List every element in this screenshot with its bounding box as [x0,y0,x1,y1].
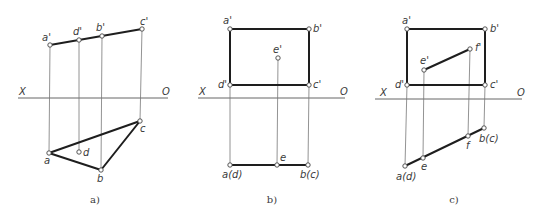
point-marker [306,163,310,167]
projector-line [423,70,424,158]
point-label: c' [490,79,498,90]
point-label: a' [42,32,51,43]
point-label: d' [73,26,82,37]
projector-line [468,49,470,136]
axis-label-x: X [18,86,27,97]
projector-line [140,29,142,121]
point-label: e [421,161,427,172]
panel-a: XOa'd'b'c'cadba) [18,16,170,205]
point-label: f [466,140,471,151]
projector-line [308,85,309,165]
point-marker [228,83,232,87]
point-label: b(c) [479,133,499,144]
point-label: a(d) [222,169,242,180]
point-label: b' [96,22,105,33]
point-marker [405,83,409,87]
point-label: e' [273,44,282,55]
axis-label-x: X [198,86,207,97]
projector-line [49,45,50,153]
point-label: a(d) [396,171,416,182]
axis-label-o: O [517,87,525,98]
point-label: e' [420,55,429,66]
point-label: e [280,152,286,163]
point-label: c' [313,79,321,90]
panel-c: XOa'b'f'e'd'c'b(c)fea(d)c) [375,15,525,205]
point-label: d [83,147,90,158]
point-marker [466,134,470,138]
point-marker [276,56,280,60]
point-marker [228,27,232,31]
point-marker [468,47,472,51]
point-marker [483,83,487,87]
point-marker [275,163,279,167]
point-marker [100,34,104,38]
projector-line [277,58,278,165]
orthographic-projection-diagram: XOa'd'b'c'cadba) XOa'b'e'd'c'a(d)eb(c)b)… [0,0,539,220]
point-marker [77,38,81,42]
edge-a-b [49,153,101,170]
point-label: d' [218,79,227,90]
point-label: b' [313,23,322,34]
point-label: f' [475,42,481,53]
panel-caption: c) [449,194,459,205]
point-marker [140,27,144,31]
edge-e-prime-f-prime [424,49,470,70]
point-marker [77,150,81,154]
point-label: b' [490,23,499,34]
point-label: d' [395,79,404,90]
panel-caption: a) [90,194,100,205]
point-marker [99,168,103,172]
point-label: c [140,123,146,134]
point-marker [48,43,52,47]
panel-caption: b) [267,194,277,205]
projection-figure: XOa'd'b'c'cadba) XOa'b'e'd'c'a(d)eb(c)b)… [0,0,539,220]
panel-b: XOa'b'e'd'c'a(d)eb(c)b) [198,15,348,205]
point-marker [307,83,311,87]
point-marker [483,27,487,31]
point-marker [422,68,426,72]
point-marker [403,164,407,168]
axis-label-x: X [379,87,388,98]
edge-a-d-b-c [405,128,484,166]
point-marker [228,163,232,167]
projector-line [405,85,407,166]
point-label: b(c) [300,169,320,180]
axis-label-o: O [340,86,348,97]
projector-line [101,36,102,170]
projector-line [484,85,485,128]
point-marker [307,27,311,31]
point-label: a' [223,15,232,26]
point-label: b [97,173,103,184]
point-label: a' [402,15,411,26]
axis-label-o: O [162,86,170,97]
point-label: c' [140,16,148,27]
point-marker [405,27,409,31]
point-marker [421,156,425,160]
point-marker [482,126,486,130]
point-label: a [44,155,50,166]
